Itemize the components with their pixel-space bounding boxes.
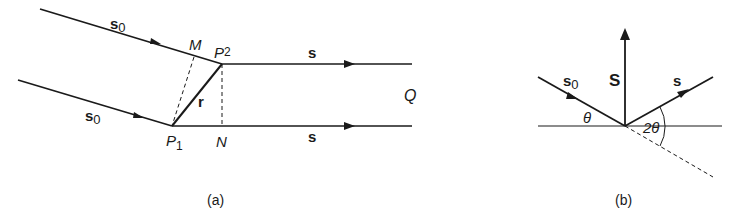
label-theta: θ bbox=[583, 109, 591, 126]
label-n: N bbox=[216, 133, 227, 150]
label-r: r bbox=[198, 93, 204, 110]
label-p1: P1 bbox=[166, 132, 183, 153]
arrow-icon bbox=[133, 112, 144, 118]
caption-a: (a) bbox=[207, 192, 224, 208]
label-S: S bbox=[609, 71, 620, 90]
label-s0-upper: s0 bbox=[110, 15, 126, 35]
label-2theta: 2θ bbox=[642, 119, 659, 136]
arrow-icon bbox=[344, 122, 355, 130]
extension-dashed bbox=[625, 126, 713, 177]
label-p2: P2 bbox=[214, 44, 231, 61]
panel-b bbox=[538, 28, 722, 177]
arrow-icon bbox=[344, 60, 355, 68]
vector-r bbox=[172, 64, 222, 126]
label-q: Q bbox=[404, 87, 416, 104]
dashed-m-p1 bbox=[172, 57, 194, 126]
scattered-ray bbox=[625, 77, 713, 126]
panel-a bbox=[18, 9, 412, 130]
arrow-up-icon bbox=[620, 28, 630, 40]
label-s-upper: s bbox=[308, 44, 316, 61]
label-s0: s0 bbox=[563, 72, 579, 92]
label-m: M bbox=[189, 36, 202, 53]
diffraction-diagram: s0 s0 M P2 P1 N r s s Q (a) s0 S s θ 2θ … bbox=[0, 0, 743, 216]
arrow-icon bbox=[566, 92, 578, 99]
label-s: s bbox=[673, 72, 681, 89]
arrow-icon bbox=[150, 38, 161, 44]
caption-b: (b) bbox=[615, 192, 632, 208]
label-s0-lower: s0 bbox=[85, 107, 101, 127]
label-s-lower: s bbox=[308, 128, 316, 145]
